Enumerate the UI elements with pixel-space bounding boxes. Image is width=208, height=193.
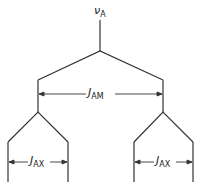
jax-left-label: JAX — [30, 155, 44, 169]
jax-right-label: JAX — [156, 155, 170, 169]
right-second-split — [134, 112, 193, 142]
root-label: νA — [94, 5, 106, 19]
jam-label: JAM — [88, 87, 104, 101]
left-second-split — [8, 112, 68, 142]
first-split — [38, 51, 163, 80]
